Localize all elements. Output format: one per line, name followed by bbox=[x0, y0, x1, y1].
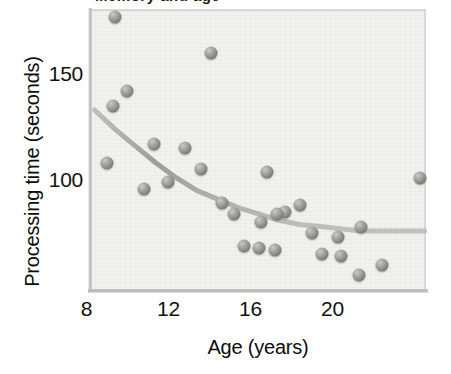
y-tick-label-150: 150 bbox=[49, 63, 83, 84]
x-tick-label-12: 12 bbox=[149, 298, 189, 319]
plot-area bbox=[90, 10, 426, 292]
y-axis-line bbox=[88, 8, 92, 293]
x-tick-label-8: 8 bbox=[67, 298, 107, 319]
x-tick-label-16: 16 bbox=[231, 298, 271, 319]
plot-top-border bbox=[90, 9, 426, 11]
plot-right-border bbox=[424, 10, 426, 292]
plot-background-texture bbox=[90, 10, 426, 292]
x-axis-line bbox=[88, 289, 428, 293]
y-axis-title: Processing time (seconds) bbox=[21, 12, 44, 332]
y-tick-label-100: 100 bbox=[49, 169, 83, 190]
chart-title-cropped: Memory and age bbox=[95, 0, 295, 7]
chart-title-text: Memory and age bbox=[95, 0, 220, 4]
x-axis-title: Age (years) bbox=[90, 336, 426, 359]
scatterplot-figure: Memory and age 100150 Processing time (s… bbox=[0, 0, 451, 374]
x-tick-label-20: 20 bbox=[313, 298, 353, 319]
